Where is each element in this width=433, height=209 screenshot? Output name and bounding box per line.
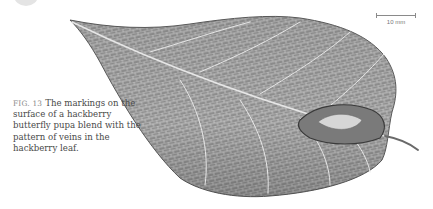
scale-tick-left <box>376 13 377 18</box>
figure-label: FIG. 13 <box>13 99 42 108</box>
scale-bar: 10 mm <box>376 13 416 29</box>
figure-caption: FIG. 13The markings on the surface of a … <box>13 98 143 154</box>
scale-label: 10 mm <box>376 19 416 25</box>
scale-tick-right <box>415 13 416 18</box>
scale-line <box>376 15 416 16</box>
leaf-stem <box>385 136 418 150</box>
